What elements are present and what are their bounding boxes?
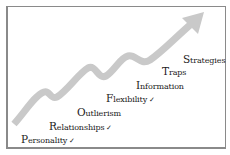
step-information: Information xyxy=(136,79,184,91)
step-initial: O xyxy=(77,106,86,118)
checkmark-icon: ✓ xyxy=(69,137,75,145)
step-initial: P xyxy=(21,133,28,145)
step-label: utlierism xyxy=(86,109,121,118)
step-initial: T xyxy=(162,65,169,77)
step-strategies: Strategies xyxy=(183,53,225,65)
step-label: elationships xyxy=(57,123,105,132)
checkmark-icon: ✓ xyxy=(106,124,112,132)
checkmark-icon: ✓ xyxy=(149,96,155,104)
step-initial: R xyxy=(49,120,57,132)
step-label: nformation xyxy=(140,82,184,91)
step-relationships: Relationships✓ xyxy=(49,120,112,132)
step-flexibility: Flexibility✓ xyxy=(106,92,155,104)
step-label: ersonality xyxy=(28,136,67,145)
wavy-growth-arrow-icon xyxy=(0,0,230,155)
step-label: raps xyxy=(169,68,186,77)
step-personality: Personality✓ xyxy=(21,133,75,145)
step-traps: Traps xyxy=(162,65,186,77)
step-label: lexibility xyxy=(113,95,147,104)
step-outlierism: Outlierism xyxy=(77,106,121,118)
step-label: trategies xyxy=(190,56,225,65)
